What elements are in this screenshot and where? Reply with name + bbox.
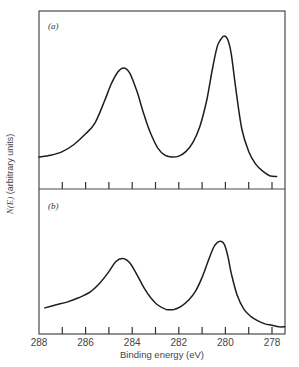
x-tick-label: 284 bbox=[124, 337, 141, 348]
panel-label-b: (b) bbox=[48, 201, 59, 211]
x-axis-ticks bbox=[62, 182, 272, 334]
y-axis-label-units: (arbitrary units) bbox=[5, 134, 15, 197]
spectrum-curves bbox=[39, 36, 285, 327]
panel-label-a: (a) bbox=[48, 21, 59, 31]
x-tick-label: 278 bbox=[264, 337, 281, 348]
x-tick-label: 288 bbox=[31, 337, 48, 348]
xps-spectrum-chart: (a) (b) 288286284282280278 Binding energ… bbox=[0, 0, 299, 367]
x-tick-labels: 288286284282280278 bbox=[31, 337, 281, 348]
spectrum-curve-a bbox=[39, 36, 277, 177]
y-axis-label: N(E) (arbitrary units) bbox=[5, 134, 15, 216]
y-axis-label-symbol: N(E) bbox=[5, 197, 15, 216]
x-tick-label: 286 bbox=[77, 337, 94, 348]
spectrum-curve-b bbox=[45, 241, 285, 327]
plot-frames bbox=[39, 11, 285, 334]
x-axis-label: Binding energy (eV) bbox=[120, 349, 204, 360]
plot-border bbox=[39, 11, 285, 334]
x-tick-label: 280 bbox=[217, 337, 234, 348]
x-tick-label: 282 bbox=[170, 337, 187, 348]
chart-labels: (a) (b) 288286284282280278 Binding energ… bbox=[5, 21, 281, 360]
